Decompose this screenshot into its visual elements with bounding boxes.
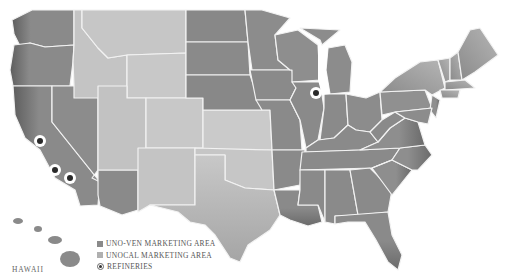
state-ia bbox=[250, 70, 296, 100]
state-wa bbox=[12, 10, 74, 47]
refinery-marker[interactable] bbox=[310, 87, 322, 99]
state-fl bbox=[335, 212, 402, 270]
refinery-icon bbox=[97, 263, 104, 270]
state-ny bbox=[380, 60, 445, 95]
island-oahu bbox=[34, 226, 42, 232]
state-az bbox=[98, 170, 138, 215]
island-big-island bbox=[60, 251, 80, 267]
uno-ven-swatch-icon bbox=[97, 241, 103, 247]
legend-label: UNO-VEN MARKETING AREA bbox=[106, 238, 216, 250]
legend-label: REFINERIES bbox=[107, 261, 153, 273]
state-me bbox=[458, 28, 498, 80]
state-or bbox=[10, 43, 74, 86]
legend-label: UNOCAL MARKETING AREA bbox=[106, 250, 212, 262]
refinery-marker[interactable] bbox=[34, 135, 46, 147]
state-co bbox=[146, 98, 203, 148]
state-nd bbox=[186, 10, 248, 42]
state-wy bbox=[127, 53, 186, 98]
legend-item-refineries: REFINERIES bbox=[97, 261, 216, 273]
state-ma bbox=[445, 80, 475, 90]
unocal-swatch-icon bbox=[97, 252, 103, 258]
island-kauai bbox=[13, 218, 23, 224]
refinery-marker[interactable] bbox=[64, 172, 76, 184]
island-maui bbox=[48, 236, 62, 244]
state-ct bbox=[440, 90, 460, 98]
state-ks bbox=[203, 110, 272, 150]
hawaii-inset bbox=[13, 218, 80, 267]
state-nj bbox=[430, 95, 440, 118]
legend-item-uno-ven: UNO-VEN MARKETING AREA bbox=[97, 238, 216, 250]
state-nm bbox=[138, 148, 195, 212]
state-sd bbox=[186, 42, 250, 75]
hawaii-label: HAWAII bbox=[12, 265, 44, 274]
us-map bbox=[0, 0, 516, 278]
refinery-marker[interactable] bbox=[49, 164, 61, 176]
legend-item-unocal: UNOCAL MARKETING AREA bbox=[97, 250, 216, 262]
map-legend: UNO-VEN MARKETING AREA UNOCAL MARKETING … bbox=[97, 238, 216, 273]
